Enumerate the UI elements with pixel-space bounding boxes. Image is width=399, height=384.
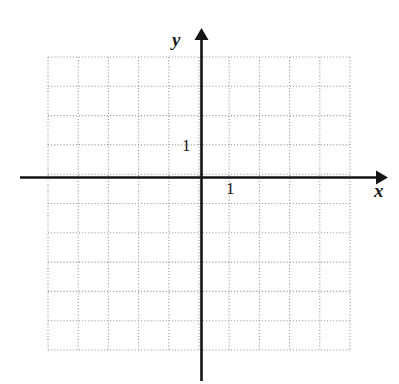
x-axis-tick-label-1: 1 (226, 180, 235, 197)
coordinate-plane-figure (0, 0, 399, 384)
y-axis-tick-label-1: 1 (182, 137, 191, 154)
x-axis-label: x (374, 181, 384, 200)
y-axis-label: y (172, 30, 180, 49)
